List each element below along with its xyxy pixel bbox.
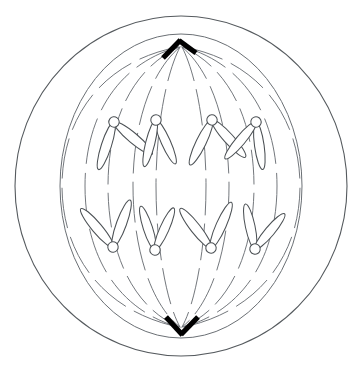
chromatid-arm-right	[94, 120, 119, 171]
chromosome-group-lower	[76, 197, 289, 260]
chromosome-lower-4	[230, 201, 289, 260]
spindle-fiber-r1	[182, 47, 229, 327]
spindle-fiber-group	[62, 47, 300, 327]
cell-division-diagram	[0, 0, 360, 371]
spindle-fiber-l1	[133, 47, 180, 327]
centromere	[149, 244, 160, 255]
chromatid-arm-right	[108, 198, 134, 248]
chromosome-lower-2	[132, 203, 179, 257]
centromere	[151, 115, 162, 126]
spindle-fiber-r2	[183, 47, 254, 327]
spindle-fiber-l4	[62, 47, 178, 327]
spindle-fiber-l2	[108, 47, 179, 327]
centrosome-top-bar-right	[179, 41, 196, 54]
centromere	[107, 241, 118, 252]
centromere	[205, 242, 216, 253]
cell-membrane-outline	[15, 16, 347, 356]
centromere	[206, 114, 217, 125]
spindle-fiber-rc	[182, 47, 206, 327]
chromosome-group-upper	[87, 110, 282, 174]
spindle-fiber-r4	[184, 47, 300, 327]
centrosome-bottom	[166, 317, 198, 335]
chromosome-lower-3	[176, 200, 239, 256]
spindle-envelope-outline	[60, 34, 302, 338]
cell-diagram-canvas	[0, 0, 360, 371]
spindle-fiber-lc	[156, 47, 180, 327]
